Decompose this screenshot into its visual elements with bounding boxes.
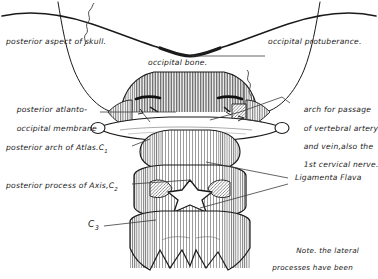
label-text: posterior process of Axis,C bbox=[6, 181, 114, 190]
label-posterior-process-of-axis: posterior process of Axis,C2 bbox=[6, 181, 118, 194]
label-subscript: 1 bbox=[104, 148, 108, 154]
label-ligamenta-flava: Ligamenta Flava bbox=[295, 173, 362, 182]
label-posterior-atlanto-occipital-membrane: posterior atlanto- occipital membrane bbox=[6, 96, 97, 142]
label-occipital-protuberance: occipital protuberance. bbox=[268, 37, 362, 46]
label-subscript: 2 bbox=[114, 186, 118, 192]
label-line-1: posterior atlanto- bbox=[17, 105, 88, 114]
note-line-1: Note. the lateral bbox=[272, 246, 359, 255]
note-line-2: processes have been bbox=[272, 263, 353, 272]
label-posterior-aspect-of-skull: posterior aspect of skull. bbox=[6, 37, 106, 46]
label-arch-for-passage: arch for passage of vertebral artery and… bbox=[293, 96, 378, 179]
anatomical-figure: posterior aspect of skull. occipital bon… bbox=[0, 0, 378, 279]
label-line-2: occipital membrane bbox=[17, 124, 97, 133]
c3-vertebra-shape bbox=[128, 209, 252, 271]
label-note: Note. the lateral processes have been re… bbox=[262, 238, 359, 279]
label-text: posterior arch of Atlas.C bbox=[6, 143, 104, 152]
label-c3: C3 bbox=[88, 220, 99, 233]
label-posterior-arch-of-atlas: posterior arch of Atlas.C1 bbox=[6, 143, 108, 156]
label-line-3: and vein,also the bbox=[304, 142, 374, 151]
label-text: C bbox=[88, 219, 95, 229]
label-occipital-bone: occipital bone. bbox=[148, 58, 207, 67]
label-line-2: of vertebral artery bbox=[304, 124, 378, 133]
label-line-4: 1st cervical nerve. bbox=[304, 160, 378, 169]
label-subscript: 3 bbox=[95, 224, 100, 232]
label-line-1: arch for passage bbox=[304, 105, 372, 114]
